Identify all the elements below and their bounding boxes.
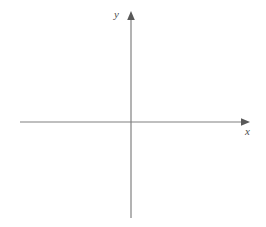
axes-drawing	[0, 0, 266, 227]
coordinate-plane-diagram: y x	[0, 0, 266, 227]
x-axis-label: x	[245, 126, 250, 137]
y-axis-arrowhead-icon	[127, 11, 135, 20]
y-axis-label: y	[114, 9, 119, 20]
